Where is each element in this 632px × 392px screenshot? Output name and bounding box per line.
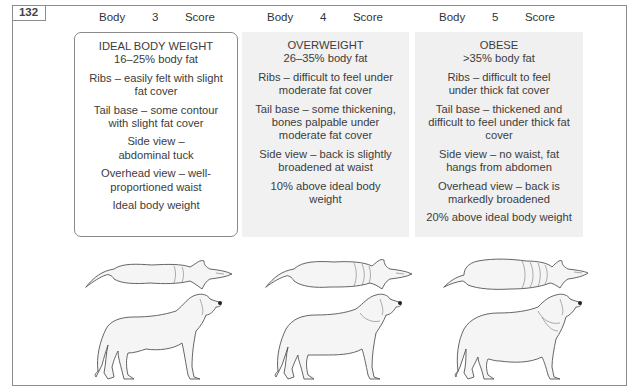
criterion-side-view: Side view – back is slightly broadened a…: [242, 148, 409, 175]
overweight-box: OVERWEIGHT 26–35% body fat Ribs – diffic…: [242, 32, 409, 237]
header-body-label: Body: [439, 11, 465, 27]
criterion-tail-base: Tail base – some thickening, bones palpa…: [242, 103, 409, 143]
side-dog-overweight-icon: [264, 293, 414, 385]
header-score-label: Score: [353, 11, 383, 27]
criterion-ribs: Ribs – difficult to feel under thick fat…: [415, 71, 583, 98]
header-score-value: 3: [152, 11, 158, 27]
column-header-3: Body 3 Score: [99, 11, 215, 27]
side-dog-ideal-icon: [84, 293, 234, 385]
criterion-side-view: Side view – abdominal tuck: [75, 135, 237, 162]
body-fat-range: 26–35% body fat: [242, 52, 409, 65]
criterion-ribs: Ribs – difficult to feel under moderate …: [242, 71, 409, 98]
criterion-ribs: Ribs – easily felt with slight fat cover: [75, 72, 237, 99]
criterion-tail-base: Tail base – some contour with slight fat…: [75, 104, 237, 131]
header-body-label: Body: [267, 11, 293, 27]
column-header-5: Body 5 Score: [439, 11, 555, 27]
obese-box: OBESE >35% body fat Ribs – difficult to …: [415, 32, 583, 237]
header-body-label: Body: [99, 11, 125, 27]
body-fat-range: 16–25% body fat: [75, 53, 237, 66]
criterion-weight: 20% above ideal body weight: [415, 211, 583, 224]
category-title: OVERWEIGHT: [242, 39, 409, 52]
criterion-weight: 10% above ideal body weight: [242, 180, 409, 207]
criterion-weight: Ideal body weight: [75, 199, 237, 212]
criterion-overhead-view: Overhead view – well-proportioned waist: [75, 167, 237, 194]
criterion-tail-base: Tail base – thickened and difficult to f…: [415, 103, 583, 143]
column-header-4: Body 4 Score: [267, 11, 383, 27]
category-title: IDEAL BODY WEIGHT: [75, 40, 237, 53]
ideal-weight-box: IDEAL BODY WEIGHT 16–25% body fat Ribs –…: [74, 32, 238, 237]
header-score-label: Score: [525, 11, 555, 27]
overhead-dog-overweight-icon: [258, 253, 418, 293]
header-score-label: Score: [185, 11, 215, 27]
header-score-value: 5: [492, 11, 498, 27]
overhead-dog-ideal-icon: [78, 253, 238, 293]
criterion-side-view: Side view – no waist, fat hangs from abd…: [415, 148, 583, 175]
side-dog-obese-icon: [444, 293, 594, 385]
figure-number: 132: [12, 5, 46, 21]
body-fat-range: >35% body fat: [415, 52, 583, 65]
category-title: OBESE: [415, 39, 583, 52]
overhead-dog-obese-icon: [438, 253, 598, 293]
header-score-value: 4: [320, 11, 326, 27]
criterion-overhead-view: Overhead view – back is markedly broaden…: [415, 180, 583, 207]
